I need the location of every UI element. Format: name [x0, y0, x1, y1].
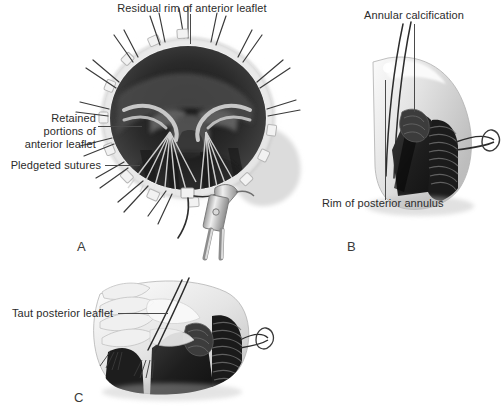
surgical-forceps: [203, 185, 254, 258]
rim-posterior-annulus-label: Rim of posterior annulus: [322, 197, 444, 210]
panel-letter-a: A: [77, 239, 86, 254]
retained-leaflet-remnants: [124, 106, 250, 140]
retained-portions-line-1: Retained: [0, 112, 96, 125]
retained-portions-line-2: portions of: [0, 125, 96, 138]
annular-calcification-label: Annular calcification: [338, 9, 490, 22]
panel-c-sutures: [148, 278, 189, 352]
retained-portions-line-3: anterior leaflet: [0, 138, 96, 151]
taut-posterior-leaflet-label: Taut posterior leaflet: [12, 307, 113, 320]
panel-b-sutures: [386, 22, 411, 178]
panel-c-suture-loop: [240, 328, 273, 349]
pledgeted-sutures-label: Pledgeted sutures: [0, 159, 101, 172]
retained-portions-label: Retained portions of anterior leaflet: [0, 112, 96, 151]
panel-c-artwork: [94, 278, 274, 401]
panel-a-artwork: [76, 6, 301, 258]
panel-letter-c: C: [74, 390, 84, 405]
panel-letter-b: B: [347, 239, 356, 254]
residual-rim-label: Residual rim of anterior leaflet: [110, 2, 274, 15]
surgical-illustration-figure: Residual rim of anterior leaflet Retaine…: [0, 0, 501, 417]
pledgeted-sutures-ring: [76, 6, 300, 238]
panel-b-suture-loop: [456, 130, 499, 151]
leader-lines: [98, 14, 414, 313]
chordae-fans: [128, 132, 232, 198]
panel-b-artwork: [366, 22, 499, 216]
